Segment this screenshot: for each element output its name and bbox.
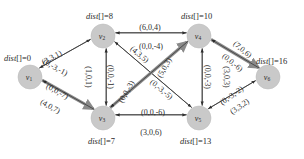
node-v3: v3dist[]=7	[88, 106, 115, 146]
labels-layer: (3,3,1)(0,-3,-1)(4,0,7)(0,0,-7)(1,0,1)(0…	[39, 23, 254, 137]
edge-label-v5-v4: (3,0,3)	[222, 66, 231, 88]
edge-label-v4-v3: (0,0,-3)	[117, 79, 137, 105]
edge-label-v5-v3: (0,0,-6)	[141, 108, 165, 117]
edge-label-v2-v3: (1,0,1)	[84, 66, 93, 88]
edge-label-v3-v2: (0,0,-1)	[106, 65, 115, 89]
dist-label-v3: dist[]=7	[88, 136, 115, 146]
dist-label-v6: dist[]=16	[256, 56, 287, 66]
node-v1: v1dist[]=0	[4, 53, 42, 89]
node-v5: v5dist[]=13	[180, 106, 211, 146]
edge-label-v3-v5: (3,0,6)	[140, 128, 162, 137]
dist-label-v2: dist[]=8	[86, 11, 113, 21]
node-v6: v6dist[]=16	[256, 56, 287, 89]
edge-label-v3-v1: (0,0,-7)	[45, 82, 71, 102]
dist-label-v5: dist[]=13	[180, 136, 211, 146]
dist-label-v1: dist[]=0	[4, 53, 31, 63]
edge-label-v4-v5: (0,0,-3)	[203, 65, 212, 89]
edge-label-v2-v4: (6,0,4)	[139, 23, 161, 32]
node-v2: v2dist[]=8	[86, 11, 115, 48]
graph-svg: v1dist[]=0v2dist[]=8v3dist[]=7v4dist[]=1…	[0, 0, 304, 159]
edge-label-v1-v3: (4,0,7)	[39, 97, 62, 115]
edge-label-v4-v2: (0,0,-4)	[139, 42, 163, 51]
dist-label-v4: dist[]=10	[181, 11, 212, 21]
graph-diagram: v1dist[]=0v2dist[]=8v3dist[]=7v4dist[]=1…	[0, 0, 304, 159]
